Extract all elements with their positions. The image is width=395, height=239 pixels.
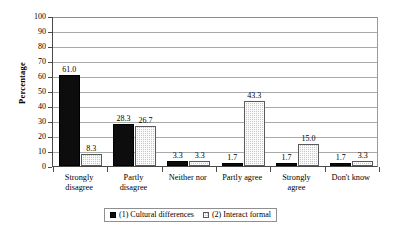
y-tick-label: 30 bbox=[20, 118, 46, 126]
bar-series-2 bbox=[352, 161, 373, 166]
x-tick-mark bbox=[379, 167, 380, 172]
y-tick-label: 100 bbox=[20, 13, 46, 21]
y-tick-label: 80 bbox=[20, 43, 46, 51]
bar-series-2 bbox=[135, 126, 156, 166]
bar-value-label: 15.0 bbox=[294, 135, 323, 143]
x-cat-label-line: agree bbox=[261, 183, 331, 193]
legend-swatch-series-2 bbox=[203, 212, 209, 218]
plot-area: 61.08.328.326.73.33.31.743.31.715.01.73.… bbox=[52, 17, 378, 167]
bar-group: 61.08.3 bbox=[53, 16, 107, 166]
y-tick-mark bbox=[48, 152, 52, 153]
bar-group: 3.33.3 bbox=[162, 16, 216, 166]
bar-value-label: 43.3 bbox=[240, 92, 269, 100]
bar-series-2 bbox=[81, 154, 102, 166]
x-cat-label-line: Don't know bbox=[316, 173, 386, 183]
bar-series-1 bbox=[167, 161, 188, 166]
y-tick-mark bbox=[48, 167, 52, 168]
x-tick-mark bbox=[107, 167, 108, 172]
bar-group: 1.715.0 bbox=[270, 16, 324, 166]
y-tick-label: 20 bbox=[20, 133, 46, 141]
y-tick-label: 40 bbox=[20, 103, 46, 111]
bar-series-2 bbox=[244, 101, 265, 166]
legend-label-series-1: (1) Cultural differences bbox=[119, 210, 194, 219]
y-tick-mark bbox=[48, 122, 52, 123]
chart-legend: (1) Cultural differences (2) Interact fo… bbox=[104, 208, 277, 222]
bar-chart: Percentage 61.08.328.326.73.33.31.743.31… bbox=[0, 0, 395, 239]
y-tick-label: 90 bbox=[20, 28, 46, 36]
bar-series-1 bbox=[113, 124, 134, 166]
legend-label-series-2: (2) Interact formal bbox=[212, 210, 271, 219]
y-tick-mark bbox=[48, 62, 52, 63]
bar-series-2 bbox=[298, 144, 319, 167]
y-tick-mark bbox=[48, 77, 52, 78]
bar-series-1 bbox=[330, 163, 351, 166]
bar-value-label: 1.7 bbox=[218, 154, 247, 162]
y-tick-label: 60 bbox=[20, 73, 46, 81]
y-tick-label: 70 bbox=[20, 58, 46, 66]
y-tick-mark bbox=[48, 137, 52, 138]
y-axis-title: Percentage bbox=[17, 38, 27, 128]
bar-series-1 bbox=[222, 163, 243, 166]
bar-value-label: 3.3 bbox=[348, 152, 377, 160]
bar-group: 28.326.7 bbox=[107, 16, 161, 166]
y-tick-label: 50 bbox=[20, 88, 46, 96]
bar-series-1 bbox=[276, 163, 297, 166]
y-tick-mark bbox=[48, 47, 52, 48]
bar-group: 1.743.3 bbox=[216, 16, 270, 166]
bar-group: 1.73.3 bbox=[325, 16, 379, 166]
x-tick-mark bbox=[270, 167, 271, 172]
x-category-label: Don't know bbox=[316, 173, 386, 183]
y-tick-label: 10 bbox=[20, 148, 46, 156]
x-cat-label-line: disagree bbox=[98, 183, 168, 193]
x-tick-mark bbox=[53, 167, 54, 172]
x-tick-mark bbox=[162, 167, 163, 172]
bar-value-label: 26.7 bbox=[131, 117, 160, 125]
bar-value-label: 61.0 bbox=[55, 66, 84, 74]
bar-value-label: 1.7 bbox=[272, 154, 301, 162]
bar-value-label: 3.3 bbox=[185, 152, 214, 160]
y-tick-mark bbox=[48, 107, 52, 108]
y-tick-mark bbox=[48, 32, 52, 33]
y-tick-label: 0 bbox=[20, 163, 46, 171]
bar-series-2 bbox=[189, 161, 210, 166]
legend-item-series-1: (1) Cultural differences bbox=[110, 210, 194, 219]
y-tick-mark bbox=[48, 92, 52, 93]
legend-swatch-series-1 bbox=[110, 212, 116, 218]
bar-value-label: 8.3 bbox=[77, 145, 106, 153]
x-tick-mark bbox=[216, 167, 217, 172]
y-tick-mark bbox=[48, 17, 52, 18]
x-tick-mark bbox=[325, 167, 326, 172]
legend-item-series-2: (2) Interact formal bbox=[203, 210, 271, 219]
